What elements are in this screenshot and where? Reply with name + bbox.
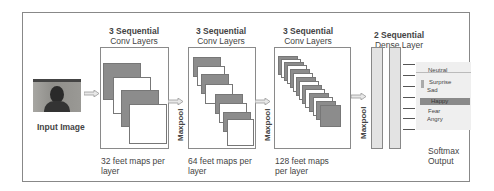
- conv-block-3: [274, 47, 351, 149]
- input-image-label: Input Image: [37, 122, 85, 132]
- diagram-frame: Input Image 3 Sequential Conv Layers 32 …: [22, 12, 470, 182]
- conv-block-1-title-line2: Conv Layers: [101, 36, 167, 46]
- conv-block-3-title-line1: 3 Sequential: [273, 26, 343, 36]
- class-angry: Angry: [427, 116, 443, 122]
- feature-map: [227, 119, 254, 146]
- class-neutral: Neutral: [428, 67, 447, 73]
- conv-block-2-caption-line1: 64 feet maps per: [188, 156, 252, 166]
- conv-block-2: [188, 47, 256, 149]
- class-fear: Fear: [428, 108, 440, 114]
- conv-block-2-title-line2: Conv Layers: [188, 36, 254, 46]
- output-arrow-icon: [403, 64, 415, 65]
- class-surprise: Surprise: [429, 79, 451, 85]
- conv-block-3-caption-line2: per layer: [275, 166, 329, 176]
- conv-block-2-caption-line2: layer: [188, 166, 252, 176]
- feature-map: [320, 105, 341, 127]
- class-happy: Happy: [431, 98, 448, 104]
- class-sad: Sad: [427, 87, 438, 93]
- conv-block-1-caption-line1: 32 feet maps per: [101, 156, 165, 166]
- dense-layer-2: [389, 47, 401, 149]
- input-image: [33, 79, 81, 112]
- maxpool-label-1: Maxpool: [176, 109, 185, 141]
- softmax-caption-line1: Softmax: [428, 146, 459, 156]
- flow-arrow-icon: [351, 93, 367, 100]
- flow-arrow-icon: [255, 98, 271, 105]
- output-arrow-icon: [403, 118, 415, 119]
- output-arrow-icon: [403, 129, 415, 130]
- conv-block-1: [100, 47, 169, 149]
- conv-block-3-caption-line1: 128 feet maps: [275, 156, 329, 166]
- output-arrow-icon: [403, 75, 415, 76]
- dense-layer-1: [371, 47, 383, 149]
- maxpool-label-3: Maxpool: [359, 107, 368, 139]
- conv-block-1-caption-line2: layer: [101, 166, 165, 176]
- flow-arrow-icon: [84, 90, 100, 97]
- conv-block-3-title-line2: Conv Layers: [273, 36, 343, 46]
- conv-block-1-title-line1: 3 Sequential: [101, 26, 167, 36]
- output-arrow-icon: [403, 86, 415, 87]
- output-arrow-icon: [403, 97, 415, 98]
- flow-arrow-icon: [168, 98, 184, 105]
- dense-title-line1: 2 Sequential: [359, 30, 439, 40]
- maxpool-label-2: Maxpool: [263, 109, 272, 141]
- output-arrow-icon: [403, 108, 415, 109]
- softmax-caption-line2: Output: [428, 156, 459, 166]
- conv-block-2-title-line1: 3 Sequential: [188, 26, 254, 36]
- softmax-panel: Neutral Surprise Sad Happy Fear Angry: [416, 62, 471, 130]
- feature-map: [129, 104, 167, 144]
